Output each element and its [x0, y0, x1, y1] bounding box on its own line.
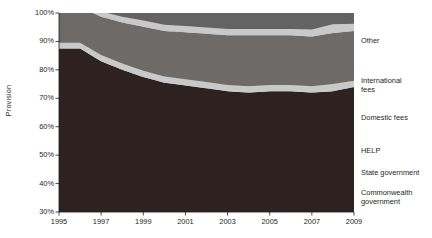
- x-tick-1997: 1997: [81, 217, 121, 226]
- x-tick-1995: 1995: [39, 217, 79, 226]
- x-tick-2003: 2003: [208, 217, 248, 226]
- x-tick-2005: 2005: [250, 217, 290, 226]
- x-tick-2001: 2001: [165, 217, 205, 226]
- legend-label-commonwealth-government: Commonwealth government: [361, 188, 432, 206]
- x-tick-2009: 2009: [334, 217, 374, 226]
- legend-label-other: Other: [361, 36, 432, 45]
- x-tick-1999: 1999: [123, 217, 163, 226]
- legend-label-international-fees: International fees: [361, 76, 432, 94]
- x-tick-2007: 2007: [292, 217, 332, 226]
- stacked-area-chart: Provision 100% 90% 80% 70% 60% 50% 40% 3…: [0, 0, 432, 238]
- legend-label-help: HELP: [361, 146, 432, 155]
- legend-label-domestic-fees: Domestic fees: [361, 113, 432, 122]
- legend-label-state-government: State government: [361, 168, 432, 177]
